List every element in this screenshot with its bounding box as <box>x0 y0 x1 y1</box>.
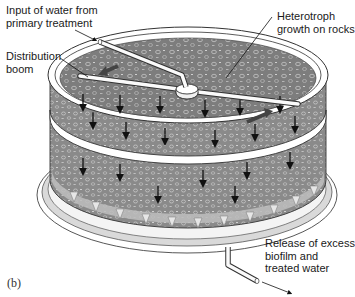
panel-label: (b) <box>7 276 21 291</box>
output-pipe <box>228 247 259 284</box>
label-distribution-boom: Distribution boom <box>6 50 61 75</box>
label-input-water: Input of water from primary treatment <box>6 4 98 29</box>
label-heterotroph-growth: Heterotroph growth on rocks <box>277 10 355 35</box>
label-release: Release of excess biofilm and treated wa… <box>265 237 355 275</box>
